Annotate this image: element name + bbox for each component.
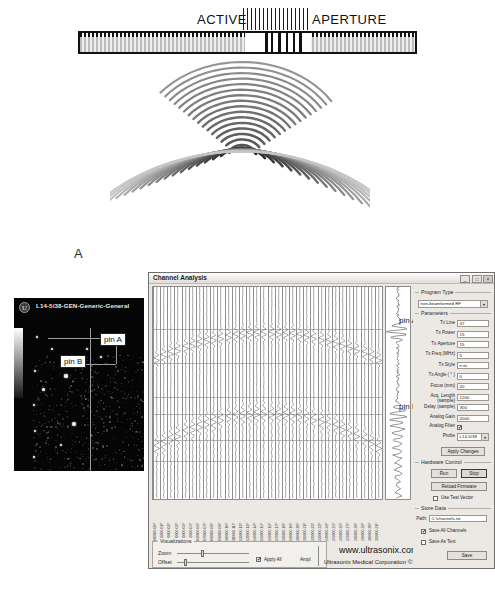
speckle-dot <box>97 407 98 408</box>
parameter-input[interactable]: 15 <box>457 331 489 338</box>
save-as-text-checkbox[interactable] <box>421 540 426 545</box>
speckle-dot <box>97 388 98 389</box>
speckle-dot <box>94 434 95 435</box>
speckle-dot <box>110 415 111 416</box>
speckle-dot <box>116 462 117 463</box>
save-button[interactable]: Save <box>447 551 487 560</box>
speckle-dot <box>106 431 107 432</box>
speckle-dot <box>130 397 132 399</box>
path-label: Path: <box>415 517 427 522</box>
speckle-dot <box>82 439 83 440</box>
parameter-input[interactable]: 2000 <box>457 415 489 422</box>
speckle-dot <box>62 460 63 461</box>
ultrasonix-logo-icon: U <box>19 302 30 313</box>
speckle-dot <box>130 418 131 419</box>
speckle-dot <box>122 397 124 399</box>
analog-filter-checkbox[interactable] <box>457 425 462 430</box>
offset-slider-track[interactable] <box>177 562 249 563</box>
ampl-label: Ampl <box>300 557 310 562</box>
stop-button[interactable]: Stop <box>461 469 487 478</box>
speckle-dot <box>137 397 139 399</box>
channel-label: 220000-22P <box>311 523 315 541</box>
speckle-dot <box>73 467 75 469</box>
speckle-dot <box>51 378 53 380</box>
speckle-dot <box>33 410 34 411</box>
channel-rf-trace <box>361 287 368 499</box>
probe-chevron-down-icon[interactable]: ▾ <box>481 434 488 440</box>
chevron-down-icon[interactable]: ▾ <box>480 301 487 307</box>
zoom-slider-knob[interactable] <box>201 550 204 557</box>
maximize-button[interactable]: □ <box>472 275 482 283</box>
path-input[interactable]: C:\channels.txt <box>429 515 487 522</box>
parameter-input[interactable]: 15 <box>457 341 489 348</box>
close-icon[interactable]: × <box>483 275 493 283</box>
speckle-dot <box>36 427 37 428</box>
reload-firmware-button[interactable]: Reload Firmware <box>431 482 487 491</box>
speckle-dot <box>81 437 82 438</box>
speckle-dot <box>113 449 114 450</box>
speckle-dot <box>75 405 77 407</box>
parameter-input[interactable]: 5 <box>457 352 489 359</box>
speckle-dot <box>121 421 123 423</box>
speckle-dot <box>121 369 122 370</box>
wavefront-svg <box>110 50 370 265</box>
parameter-input[interactable]: 300 <box>457 404 489 411</box>
probe-select[interactable]: L14-5/38 ▾ <box>457 433 489 441</box>
speckle-dot <box>36 365 38 367</box>
channel-rf-trace <box>325 287 332 499</box>
speckle-dot <box>103 431 104 432</box>
channel-rf-trace <box>303 287 310 499</box>
run-button[interactable]: Run <box>431 469 457 478</box>
zoom-slider-track[interactable] <box>177 553 249 554</box>
speckle-dot <box>101 392 102 393</box>
parameter-label: Delay (sample) <box>413 405 455 410</box>
window-titlebar[interactable]: Channel Analysis _ □ × <box>149 273 494 284</box>
speckle-dot <box>64 406 65 407</box>
visualizations-legend: Visualizations <box>158 538 194 544</box>
parameter-input[interactable]: 20 <box>457 383 489 390</box>
speckle-dot <box>131 386 132 387</box>
minimize-button[interactable]: _ <box>460 275 470 283</box>
parameter-input[interactable]: n.m. <box>457 362 489 369</box>
offset-slider-knob[interactable] <box>184 559 187 566</box>
speckle-dot <box>37 385 38 386</box>
speckle-dot <box>44 423 45 424</box>
apply-changes-button[interactable]: Apply Changes <box>441 447 485 456</box>
speckle-dot <box>40 380 42 382</box>
speckle-dot <box>73 381 74 382</box>
channel-label: 170000-17P <box>275 523 279 541</box>
speckle-dot <box>76 451 77 452</box>
use-test-vector-checkbox[interactable] <box>433 496 438 501</box>
ampl-slider-track[interactable] <box>318 546 319 566</box>
speckle-dot <box>121 453 122 454</box>
parameter-input[interactable]: 0 <box>457 373 489 380</box>
apply-all-checkbox[interactable] <box>256 557 261 562</box>
speckle-dot <box>85 382 86 383</box>
speckle-dot <box>109 393 110 394</box>
parameter-input[interactable]: 47 <box>457 320 489 327</box>
speckle-dot <box>67 384 68 385</box>
parameter-input[interactable]: 1200 <box>457 394 489 401</box>
speckle-dot <box>63 423 65 425</box>
speckle-dot <box>113 458 114 459</box>
channel-label: 190000-19P <box>289 523 293 541</box>
parameter-label: Tx Angle ( ° ) <box>413 373 455 378</box>
channel-label: 180000-18P <box>282 523 286 541</box>
program-type-select[interactable]: non-beamformed RF ▾ <box>418 300 488 308</box>
save-all-channels-checkbox[interactable] <box>421 529 426 534</box>
speckle-dot <box>56 405 57 406</box>
speckle-dot <box>93 459 95 461</box>
speckle-dot <box>57 428 58 429</box>
speckle-dot <box>104 457 106 459</box>
store-data-group: Store Data <box>415 508 491 509</box>
channel-waveform-plot[interactable] <box>152 286 383 500</box>
speckle-dot <box>96 410 98 412</box>
speckle-dot <box>49 462 50 463</box>
speckle-dot <box>60 404 61 405</box>
speckle-dot <box>77 457 78 458</box>
speckle-dot <box>114 382 116 384</box>
point-target <box>51 348 53 350</box>
channel-axis-labels: 000000-00P010000-01P020000-02P030000-03P… <box>152 501 383 541</box>
speckle-dot <box>82 456 83 457</box>
speckle-dot <box>113 357 115 359</box>
